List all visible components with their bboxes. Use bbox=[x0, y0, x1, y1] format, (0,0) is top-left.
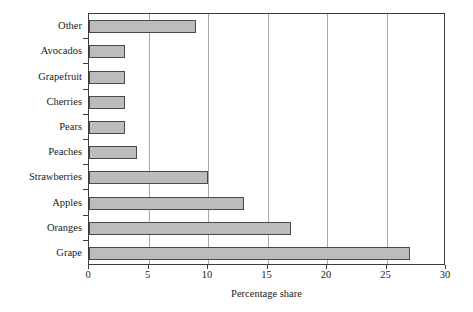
y-axis-label-grape: Grape bbox=[0, 247, 82, 258]
bar bbox=[89, 146, 137, 159]
x-axis-tick-labels: 051015202530 bbox=[88, 269, 445, 283]
bar bbox=[89, 197, 244, 210]
y-axis-label-grapefruit: Grapefruit bbox=[0, 71, 82, 82]
y-axis-category-labels: OtherAvocadosGrapefruitCherriesPearsPeac… bbox=[0, 13, 82, 265]
y-axis-label-apples: Apples bbox=[0, 197, 82, 208]
bar bbox=[89, 96, 125, 109]
y-axis-label-peaches: Peaches bbox=[0, 146, 82, 157]
bars-layer bbox=[89, 14, 444, 264]
y-axis-label-avocados: Avocados bbox=[0, 45, 82, 56]
bar bbox=[89, 247, 410, 260]
bar bbox=[89, 45, 125, 58]
x-axis-tick-label: 30 bbox=[440, 269, 451, 281]
bar bbox=[89, 222, 291, 235]
x-axis-tick-label: 0 bbox=[85, 269, 90, 281]
x-axis-title: Percentage share bbox=[88, 288, 445, 299]
bar-chart-figure: OtherAvocadosGrapefruitCherriesPearsPeac… bbox=[0, 0, 473, 312]
plot-area bbox=[88, 13, 445, 265]
y-axis-label-other: Other bbox=[0, 20, 82, 31]
y-axis-label-strawberries: Strawberries bbox=[0, 171, 82, 182]
x-axis-tick-label: 15 bbox=[261, 269, 272, 281]
bar bbox=[89, 20, 196, 33]
y-axis-label-pears: Pears bbox=[0, 121, 82, 132]
y-axis-label-cherries: Cherries bbox=[0, 96, 82, 107]
x-axis-tick-label: 20 bbox=[321, 269, 332, 281]
bar bbox=[89, 71, 125, 84]
x-axis-tick-label: 25 bbox=[380, 269, 391, 281]
y-axis-label-oranges: Oranges bbox=[0, 222, 82, 233]
bar bbox=[89, 121, 125, 134]
bar bbox=[89, 171, 208, 184]
x-axis-tick-label: 10 bbox=[202, 269, 213, 281]
x-axis-tick-label: 5 bbox=[145, 269, 150, 281]
